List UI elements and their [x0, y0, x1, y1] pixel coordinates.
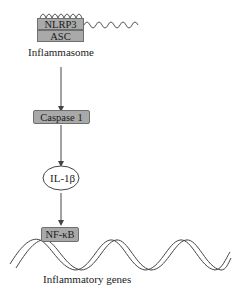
dna-strand-2	[16, 240, 231, 270]
asc-box: ASC	[37, 30, 84, 42]
nlrp3-side-wave	[84, 22, 138, 28]
dna-strand-1	[10, 239, 230, 270]
caspase1-box: Caspase 1	[33, 110, 90, 124]
inflammatory-genes-label: Inflammatory genes	[43, 273, 131, 285]
nfkb-box: NF-κB	[41, 227, 79, 242]
nlrp3-box: NLRP3	[37, 18, 84, 30]
il1b-label: IL-1β	[50, 172, 75, 184]
diagram-canvas	[0, 0, 233, 294]
inflammasome-label: Inflammasome	[28, 46, 94, 58]
